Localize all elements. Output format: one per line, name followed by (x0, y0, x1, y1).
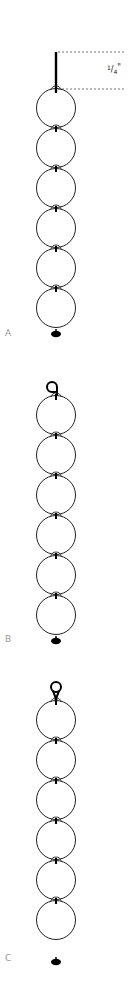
crimp-bead-icon (51, 636, 61, 644)
bead-column-a (37, 86, 76, 328)
simple-loop-icon (47, 382, 57, 396)
variant-a: 1/4" A (5, 52, 126, 338)
crimp-bead-icon (51, 329, 61, 337)
crimp-bead-icon (51, 957, 61, 965)
variant-b: B (5, 382, 76, 644)
bead-chain-diagram: 1/4" A (0, 0, 131, 1002)
dimension-label: 1/4" (107, 63, 121, 75)
bead-column-c (37, 698, 76, 940)
variant-label-c: C (5, 953, 11, 963)
variant-c: C (5, 682, 76, 965)
variant-label-b: B (5, 634, 11, 644)
dimension-marker: 1/4" (58, 52, 126, 89)
bead-column-b (37, 393, 76, 635)
variant-label-a: A (5, 328, 12, 338)
